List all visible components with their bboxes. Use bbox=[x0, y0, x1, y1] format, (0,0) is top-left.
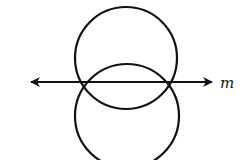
geometry-diagram: m bbox=[0, 0, 240, 160]
bottom-circle bbox=[75, 64, 179, 160]
line-m-label: m bbox=[220, 74, 234, 92]
top-circle bbox=[75, 7, 177, 109]
